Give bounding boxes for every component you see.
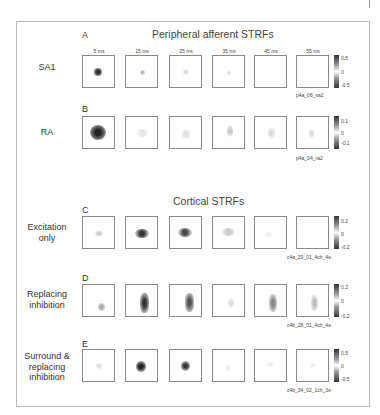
colorbar-tick-min: -0.1 — [341, 140, 350, 146]
colorbar-tick-zero: 0 — [341, 231, 344, 237]
strf-e-35ms — [212, 349, 245, 382]
row-label-sa1: SA1 — [12, 62, 82, 73]
row-label-replacing-inhibition: Replacing inhibition — [12, 289, 82, 310]
strf-d-55ms — [296, 284, 329, 317]
strf-sa1-45ms — [254, 55, 287, 88]
strf-c-45ms — [254, 216, 287, 249]
strf-sa1-5ms — [82, 55, 115, 88]
strf-e-55ms — [296, 349, 329, 382]
strf-e-45ms — [254, 349, 287, 382]
colorbar-d — [334, 284, 339, 317]
panel-letter-a: A — [82, 30, 88, 40]
strf-d-35ms — [212, 284, 245, 317]
strf-ra-55ms — [296, 116, 329, 149]
cell-id-c: c4a_20_01_4ch_4e — [287, 254, 331, 260]
strf-e-5ms — [82, 349, 115, 382]
time-label-25ms: 25 ms — [169, 48, 203, 54]
colorbar-tick-zero: 0 — [341, 130, 344, 136]
panel-letter-c: C — [82, 205, 89, 215]
section-title-peripheral: Peripheral afferent STRFs — [152, 28, 274, 40]
colorbar-tick-min: -0.5 — [341, 82, 350, 88]
panel-letter-e: E — [82, 339, 88, 349]
corner-tick — [369, 0, 370, 8]
strf-e-15ms — [125, 349, 158, 382]
strf-d-15ms — [125, 284, 158, 317]
strf-sa1-55ms — [296, 55, 329, 88]
strf-d-5ms — [82, 284, 115, 317]
colorbar-c — [334, 216, 339, 249]
colorbar-tick-zero: 0 — [341, 363, 344, 369]
strf-c-5ms — [82, 216, 115, 249]
colorbar-tick-min: -0.2 — [341, 313, 350, 319]
row-label-line: replacing — [12, 362, 82, 373]
row-label-line: Replacing — [12, 289, 82, 300]
colorbar-tick-max: 0.5 — [341, 55, 348, 61]
strf-ra-5ms — [82, 116, 115, 149]
row-label-surround-replacing-inhibition: Surround & replacing inhibition — [12, 351, 82, 383]
panel-letter-b: B — [82, 104, 88, 114]
time-label-55ms: 55 ms — [296, 48, 330, 54]
time-label-45ms: 45 ms — [254, 48, 288, 54]
row-label-line: inhibition — [12, 372, 82, 383]
strf-sa1-15ms — [125, 55, 158, 88]
strf-sa1-25ms — [169, 55, 202, 88]
strf-ra-15ms — [125, 116, 158, 149]
strf-ra-35ms — [212, 116, 245, 149]
row-label-line: Excitation — [12, 222, 82, 233]
colorbar-tick-max: 0.2 — [341, 284, 348, 290]
strf-e-25ms — [169, 349, 202, 382]
colorbar-tick-min: -0.5 — [341, 376, 350, 382]
time-label-5ms: 5 ms — [82, 48, 116, 54]
colorbar-tick-max: 0.2 — [341, 218, 348, 224]
colorbar-ra — [334, 116, 339, 149]
strf-c-25ms — [169, 216, 202, 249]
strf-ra-25ms — [169, 116, 202, 149]
cell-id-e: c4b_34_02_1ch_3e — [287, 387, 331, 393]
row-label-excitation-only: Excitation only — [12, 222, 82, 243]
colorbar-e — [334, 349, 339, 382]
colorbar-tick-max: 0.1 — [341, 118, 348, 124]
row-label-line: inhibition — [12, 300, 82, 311]
colorbar-sa1 — [334, 55, 339, 88]
section-title-cortical: Cortical STRFs — [173, 195, 244, 207]
time-label-15ms: 15 ms — [125, 48, 159, 54]
cell-id-sa1: p4a_06_sa2 — [296, 92, 324, 98]
colorbar-tick-min: -0.2 — [341, 244, 350, 250]
row-label-line: Surround & — [12, 351, 82, 362]
colorbar-tick-zero: 0 — [341, 69, 344, 75]
strf-sa1-35ms — [212, 55, 245, 88]
strf-c-15ms — [125, 216, 158, 249]
time-label-35ms: 35 ms — [212, 48, 246, 54]
strf-ra-45ms — [254, 116, 287, 149]
row-label-line: only — [12, 233, 82, 244]
strf-d-25ms — [169, 284, 202, 317]
panel-letter-d: D — [82, 273, 89, 283]
strf-d-45ms — [254, 284, 287, 317]
colorbar-tick-max: 0.5 — [341, 350, 348, 356]
cell-id-ra: p4a_04_ra2 — [296, 155, 323, 161]
strf-c-55ms — [296, 216, 329, 249]
strf-c-35ms — [212, 216, 245, 249]
cell-id-d: c4b_28_01_4ch_4e — [287, 322, 331, 328]
colorbar-tick-zero: 0 — [341, 298, 344, 304]
row-label-ra: RA — [12, 127, 82, 138]
